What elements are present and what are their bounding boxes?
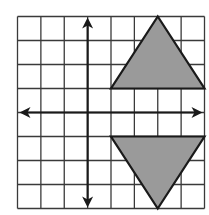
coordinate-grid-diagram — [0, 0, 209, 215]
lower-triangle — [111, 137, 205, 209]
upper-triangle — [111, 17, 205, 89]
